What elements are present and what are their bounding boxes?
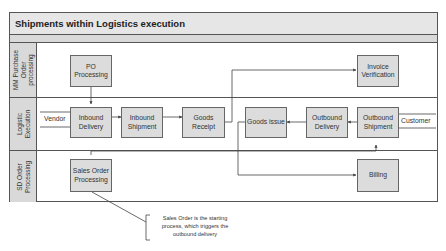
- diagram-title-bar: Shipments within Logistics execution: [10, 13, 437, 35]
- node-goods-issue[interactable]: Goods issue: [245, 107, 287, 138]
- lane-label-sd: SD Order Processing: [10, 151, 37, 202]
- node-invoice-verification[interactable]: Invoice Verification: [357, 55, 399, 87]
- lane-label-mm: MM Purchase Order processing: [10, 43, 37, 97]
- lane-label-mm-text: MM Purchase Order processing: [12, 50, 35, 90]
- node-inbound-shipment[interactable]: Inbound Shipment: [121, 107, 163, 138]
- external-vendor: Vendor: [44, 115, 66, 122]
- node-goods-receipt[interactable]: Goods Receipt: [182, 107, 225, 138]
- diagram-title: Shipments within Logistics execution: [15, 18, 185, 29]
- node-outbound-delivery[interactable]: Outbound Delivery: [306, 107, 348, 138]
- node-billing[interactable]: Billing: [357, 159, 399, 192]
- external-customer: Customer: [401, 117, 430, 124]
- lane-label-logistic-text: Logistic Execution: [16, 110, 31, 139]
- lane-label-sd-text: SD Order Processing: [16, 160, 31, 192]
- node-sales-order-processing[interactable]: Sales Order Processing: [70, 159, 112, 192]
- lane-label-logistic: Logistic Execution: [10, 98, 37, 150]
- node-inbound-delivery[interactable]: Inbound Delivery: [70, 107, 112, 138]
- node-po-processing[interactable]: PO Processing: [70, 55, 112, 87]
- header-strip: [10, 35, 437, 43]
- callout-note: Sales Order is the starting process, whi…: [147, 214, 243, 240]
- node-outbound-shipment[interactable]: Outbound Shipment: [357, 107, 399, 138]
